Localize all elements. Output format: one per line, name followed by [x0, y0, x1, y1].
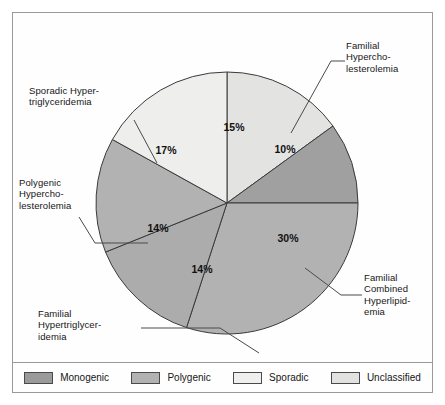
- callout-familial-hypertriglyceridemia: Familial Hypertriglycer- idemia: [38, 308, 142, 342]
- legend-entry-monogenic[interactable]: Monogenic: [24, 372, 109, 384]
- callout-polygenic-hypercholesterolemia: Polygenic Hypercho- lesterolemia: [19, 177, 111, 211]
- leader-line-polygenic-hypercholesterolemia-a: [79, 217, 95, 243]
- slice-percent-familial-hypertriglyceridemia: 14%: [191, 263, 213, 275]
- pie-chart-figure: 15%10%30%14%14%17% Familial Hypercho- le…: [0, 0, 445, 405]
- slice-percent-sporadic-hypertriglyceridemia: 17%: [155, 144, 177, 156]
- legend-entry-unclassified[interactable]: Unclassified: [331, 372, 421, 384]
- chart-legend: MonogenicPolygenicSporadicUnclassified: [13, 362, 432, 392]
- legend-entry-polygenic[interactable]: Polygenic: [131, 372, 210, 384]
- legend-label-polygenic: Polygenic: [167, 372, 210, 383]
- callout-sporadic-hypertriglyceridemia: Sporadic Hyper- triglyceridemia: [29, 85, 139, 108]
- pie-slices-group: [96, 72, 358, 334]
- callout-familial-hypercholesterolemia: Familial Hypercho- lesterolemia: [346, 40, 438, 74]
- slice-percent-unclassified: 15%: [223, 121, 245, 133]
- legend-swatch-monogenic: [24, 372, 53, 384]
- slice-percent-familial-combined-hyperlipidemia: 30%: [277, 232, 299, 244]
- legend-label-unclassified: Unclassified: [367, 372, 421, 383]
- legend-label-sporadic: Sporadic: [269, 372, 308, 383]
- callout-familial-combined-hyperlipidemia: Familial Combined Hyperlipid- emia: [364, 272, 444, 318]
- slice-percent-familial-hypercholesterolemia: 10%: [274, 143, 296, 155]
- legend-swatch-sporadic: [233, 372, 262, 384]
- slice-percent-polygenic-hypercholesterolemia: 14%: [147, 222, 169, 234]
- legend-entry-sporadic[interactable]: Sporadic: [233, 372, 308, 384]
- legend-label-monogenic: Monogenic: [60, 372, 109, 383]
- legend-swatch-polygenic: [131, 372, 160, 384]
- legend-swatch-unclassified: [331, 372, 360, 384]
